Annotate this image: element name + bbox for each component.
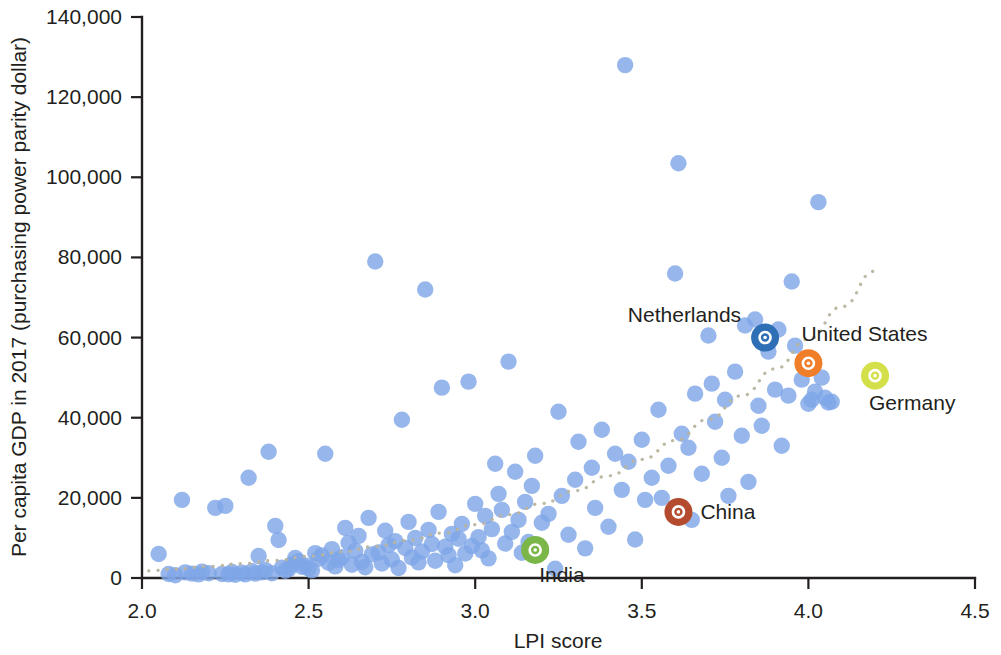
- x-tick-label: 3.0: [461, 599, 490, 622]
- data-point: [490, 486, 506, 502]
- x-tick-label: 2.0: [127, 599, 156, 622]
- data-point: [667, 265, 683, 281]
- data-point: [750, 397, 766, 413]
- chart-canvas: 020,00040,00060,00080,000100,000120,0001…: [0, 0, 1001, 655]
- data-point: [650, 402, 666, 418]
- data-point: [500, 353, 516, 369]
- data-point: [260, 444, 276, 460]
- data-point: [350, 528, 366, 544]
- data-point: [420, 522, 436, 538]
- y-tick-label: 80,000: [58, 245, 122, 268]
- scatter-chart: 020,00040,00060,00080,000100,000120,0001…: [0, 0, 1001, 655]
- y-tick-label: 20,000: [58, 486, 122, 509]
- country-label-germany: Germany: [869, 391, 956, 414]
- data-point: [660, 458, 676, 474]
- data-point: [687, 385, 703, 401]
- data-point: [727, 363, 743, 379]
- data-point: [754, 418, 770, 434]
- data-point: [390, 560, 406, 576]
- data-point: [217, 498, 233, 514]
- data-point: [670, 155, 686, 171]
- data-point: [634, 432, 650, 448]
- data-point: [700, 327, 716, 343]
- data-point: [644, 470, 660, 486]
- data-point: [824, 393, 840, 409]
- data-point: [174, 492, 190, 508]
- data-point: [367, 253, 383, 269]
- highlight-marker-core: [807, 361, 811, 365]
- data-point: [484, 521, 500, 537]
- highlight-germany: Germany: [861, 362, 956, 414]
- y-tick-label: 120,000: [46, 85, 122, 108]
- data-point: [560, 527, 576, 543]
- data-point: [430, 504, 446, 520]
- y-tick-label: 40,000: [58, 406, 122, 429]
- country-label-united-states: United States: [801, 322, 927, 345]
- data-point: [600, 519, 616, 535]
- data-point: [784, 273, 800, 289]
- data-point: [487, 456, 503, 472]
- data-point: [704, 375, 720, 391]
- y-tick-label: 60,000: [58, 326, 122, 349]
- x-tick-label: 2.5: [294, 599, 323, 622]
- data-point: [507, 464, 523, 480]
- data-point: [527, 448, 543, 464]
- data-point: [680, 440, 696, 456]
- data-point: [540, 506, 556, 522]
- data-point: [627, 531, 643, 547]
- y-tick-label: 100,000: [46, 165, 122, 188]
- highlight-marker-core: [677, 510, 681, 514]
- highlight-netherlands: Netherlands: [628, 303, 779, 352]
- y-axis-title: Per capita GDP in 2017 (purchasing power…: [7, 37, 30, 557]
- data-point: [570, 434, 586, 450]
- x-tick-label: 4.0: [794, 599, 823, 622]
- data-point: [267, 518, 283, 534]
- data-point: [480, 550, 496, 566]
- y-axis-ticks: 020,00040,00060,00080,000100,000120,0001…: [46, 5, 142, 589]
- data-point: [460, 373, 476, 389]
- x-tick-label: 3.5: [627, 599, 656, 622]
- y-tick-label: 0: [110, 566, 122, 589]
- data-point: [400, 514, 416, 530]
- highlight-marker-core: [873, 374, 877, 378]
- data-point: [614, 482, 630, 498]
- data-point: [810, 194, 826, 210]
- data-point: [637, 492, 653, 508]
- data-point: [694, 466, 710, 482]
- data-point: [594, 422, 610, 438]
- y-tick-label: 140,000: [46, 5, 122, 28]
- highlight-marker-core: [763, 336, 767, 340]
- data-point: [707, 414, 723, 430]
- country-label-china: China: [700, 500, 755, 523]
- x-axis-title: LPI score: [514, 629, 603, 652]
- x-tick-label: 4.5: [960, 599, 989, 622]
- highlight-united-states: United States: [794, 322, 927, 377]
- data-point: [240, 470, 256, 486]
- data-point: [270, 532, 286, 548]
- data-point: [150, 546, 166, 562]
- data-point: [394, 412, 410, 428]
- data-point: [434, 379, 450, 395]
- data-point: [360, 510, 376, 526]
- data-point: [567, 472, 583, 488]
- data-point: [774, 438, 790, 454]
- data-point: [734, 428, 750, 444]
- data-point: [584, 460, 600, 476]
- highlight-marker-core: [533, 548, 537, 552]
- highlight-china: China: [664, 498, 755, 526]
- data-point: [317, 446, 333, 462]
- data-point: [417, 281, 433, 297]
- data-point: [550, 404, 566, 420]
- data-point: [524, 478, 540, 494]
- data-point: [587, 500, 603, 516]
- data-point: [780, 387, 796, 403]
- country-label-india: India: [539, 563, 585, 586]
- data-point: [577, 540, 593, 556]
- country-label-netherlands: Netherlands: [628, 303, 741, 326]
- data-point: [714, 450, 730, 466]
- data-point: [617, 57, 633, 73]
- data-point: [740, 474, 756, 490]
